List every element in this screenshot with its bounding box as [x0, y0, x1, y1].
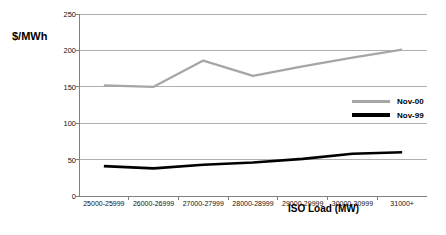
x-axis-title: ISO Load (MW)	[288, 203, 359, 214]
x-tick-label-3: 28000-28999	[232, 200, 273, 207]
x-tick-label-6: 31000+	[390, 200, 414, 207]
chart-legend: Nov-00 Nov-99	[352, 94, 424, 122]
series-line-nov-00	[104, 50, 402, 87]
chart-container: $/MWh 050100150200250 25000-2599926000-2…	[0, 0, 446, 235]
series-line-nov-99	[104, 152, 402, 168]
legend-label-nov00: Nov-00	[397, 97, 424, 106]
x-tick-label-0: 25000-25999	[83, 200, 124, 207]
legend-swatch-nov00	[352, 100, 390, 103]
legend-item-nov99: Nov-99	[352, 108, 424, 122]
x-tick-label-1: 26000-26999	[133, 200, 174, 207]
legend-swatch-nov99	[352, 113, 390, 117]
legend-label-nov99: Nov-99	[397, 111, 424, 120]
legend-item-nov00: Nov-00	[352, 94, 424, 108]
x-tick-label-2: 27000-27999	[183, 200, 224, 207]
